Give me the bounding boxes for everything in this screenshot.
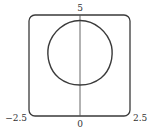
plot-canvas: 5 −2.5 2.5 0 xyxy=(0,0,151,134)
x-origin-label: 0 xyxy=(77,119,83,129)
x-min-label: −2.5 xyxy=(5,113,27,123)
y-max-label: 5 xyxy=(77,3,83,13)
plot-frame xyxy=(29,15,130,116)
x-max-label: 2.5 xyxy=(133,113,148,123)
